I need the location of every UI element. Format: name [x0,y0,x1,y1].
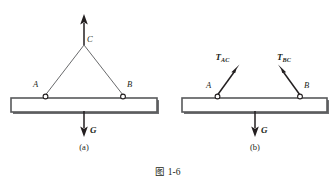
panel-label-a: (a) [79,142,89,152]
cable-ac [46,45,85,95]
figure-1-6: C A B G (a) [0,0,336,188]
panel-label-b: (b) [250,142,260,152]
weight-arrow-g-a [80,111,88,137]
pin-b-b [298,94,303,99]
pin-a [43,94,48,99]
label-force-g-a: G [90,125,97,135]
label-force-tbc-sub: BC [282,56,292,63]
label-force-g-b: G [261,125,268,135]
label-point-a-a: A [32,79,39,89]
panel-a: C A B G (a) [11,14,159,152]
weight-arrow-g-b [251,111,259,137]
panel-b: TAC TBC A B G (b) [182,52,329,152]
label-point-b-b: B [304,80,309,90]
beam-a [11,98,159,114]
label-force-tbc: TBC [277,52,292,63]
cable-bc [84,45,123,95]
force-arrow-tac [218,65,240,96]
figure-caption: 图 1-6 [155,167,180,177]
pin-a-b [215,94,220,99]
label-force-tac-sub: AC [220,56,230,63]
label-force-tac: TAC [216,52,231,63]
label-point-c-a: C [87,34,93,44]
force-arrow-tbc [278,65,300,96]
label-point-a-b: A [205,80,212,90]
label-point-b-a: B [127,79,132,89]
pin-b [121,94,126,99]
